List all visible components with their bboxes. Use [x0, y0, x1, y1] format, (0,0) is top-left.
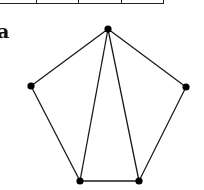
graph-edge: [108, 29, 139, 181]
graph-vertex-bottom-right: [135, 177, 142, 184]
graph-edge: [31, 29, 108, 86]
graph-edge: [108, 29, 186, 87]
graph-vertex-bottom-left: [76, 177, 83, 184]
graph-vertex-top: [104, 25, 111, 32]
graph-edge: [80, 29, 108, 181]
graph-vertex-right: [182, 83, 189, 90]
graph-vertex-left: [27, 82, 34, 89]
pentagon-graph: [0, 0, 204, 190]
graph-edge: [31, 86, 80, 181]
graph-edge: [139, 87, 186, 181]
